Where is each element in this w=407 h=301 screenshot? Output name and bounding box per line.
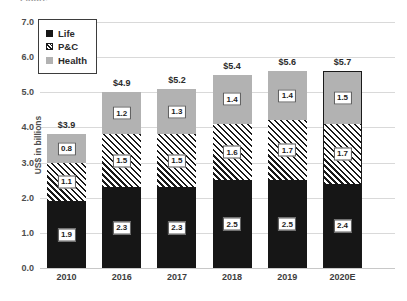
bar-column[interactable]: 2.31.51.2$4.9	[102, 22, 141, 268]
data-label: 1.5	[113, 154, 131, 167]
data-label: 1.5	[168, 154, 186, 167]
legend-item-label: Life	[58, 28, 75, 39]
total-label: $5.4	[223, 61, 241, 71]
chart-title-sliver: Figure	[20, 0, 48, 1]
data-label: 2.3	[168, 221, 186, 234]
data-label: 1.4	[278, 89, 296, 102]
legend-item-health[interactable]: Health	[46, 55, 87, 66]
legend-item-pc[interactable]: P&C	[46, 41, 87, 52]
x-axis-tick-label: 2018	[222, 272, 242, 282]
x-axis-tick-label: 2016	[112, 272, 132, 282]
gridline	[40, 268, 395, 269]
y-axis-label: US$ in billions	[33, 116, 43, 175]
x-axis-tick-label: 2019	[277, 272, 297, 282]
data-label: 1.2	[113, 107, 131, 120]
bar-column[interactable]: 2.41.71.5$5.7	[323, 22, 362, 268]
life-swatch	[46, 30, 53, 37]
total-label: $5.6	[279, 57, 297, 67]
stacked-bar-chart: Figure 0.01.02.03.04.05.06.07.0 US$ in b…	[0, 0, 407, 301]
y-axis-tick-label: 6.0	[21, 52, 34, 62]
legend-item-life[interactable]: Life	[46, 28, 87, 39]
bar-column[interactable]: 2.31.51.3$5.2	[157, 22, 196, 268]
x-axis-tick-label: 2010	[56, 272, 76, 282]
data-label: 1.5	[333, 91, 351, 104]
data-label: 1.3	[168, 105, 186, 118]
data-label: 2.5	[223, 218, 241, 231]
data-label: 2.5	[278, 218, 296, 231]
x-axis-tick-label: 2020E	[329, 272, 355, 282]
health-swatch	[46, 57, 53, 64]
bar-column[interactable]: 2.51.61.4$5.4	[213, 22, 252, 268]
pc-swatch	[46, 43, 53, 50]
data-label: 1.9	[57, 228, 75, 241]
legend-item-label: P&C	[58, 41, 78, 52]
x-axis-tick-label: 2017	[167, 272, 187, 282]
total-label: $3.9	[58, 120, 76, 130]
y-axis-tick-label: 5.0	[21, 87, 34, 97]
y-axis-tick-label: 2.0	[21, 193, 34, 203]
data-label: 1.1	[57, 175, 75, 188]
y-axis-tick-label: 1.0	[21, 228, 34, 238]
data-label: 1.6	[223, 146, 241, 159]
y-axis-tick-label: 7.0	[21, 17, 34, 27]
total-label: $5.2	[168, 75, 186, 85]
total-label: $5.7	[334, 57, 352, 67]
y-axis-tick-label: 0.0	[21, 263, 34, 273]
total-label: $4.9	[113, 78, 131, 88]
chart-legend: LifeP&CHealth	[38, 19, 97, 74]
data-label: 1.7	[278, 144, 296, 157]
data-label: 1.7	[333, 147, 351, 160]
legend-item-label: Health	[58, 55, 87, 66]
data-label: 2.4	[333, 219, 351, 232]
data-label: 0.8	[57, 142, 75, 155]
bar-column[interactable]: 2.51.71.4$5.6	[268, 22, 307, 268]
data-label: 1.4	[223, 93, 241, 106]
data-label: 2.3	[113, 221, 131, 234]
